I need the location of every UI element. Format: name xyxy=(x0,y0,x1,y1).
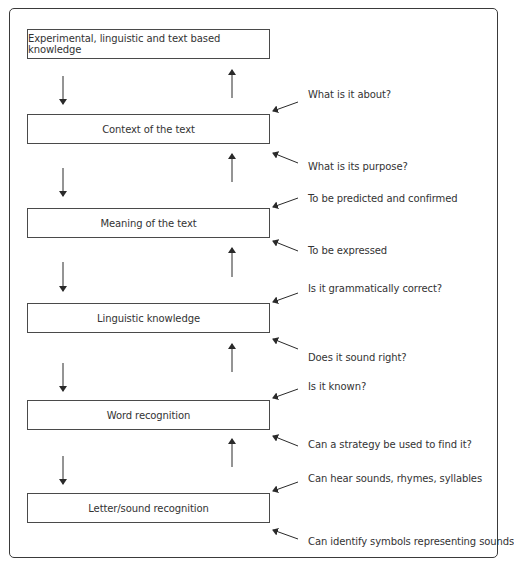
annotation-identify-symbols: Can identify symbols representing sounds xyxy=(308,536,514,547)
annotation-what-is-it-about: What is it about? xyxy=(308,89,391,100)
annotation-grammatically-correct: Is it grammatically correct? xyxy=(308,283,442,294)
box-label: Experimental, linguistic and text based … xyxy=(28,33,269,55)
annotation-hear-sounds: Can hear sounds, rhymes, syllables xyxy=(308,473,482,484)
annotation-strategy: Can a strategy be used to find it? xyxy=(308,439,472,450)
box-label: Meaning of the text xyxy=(100,218,196,229)
box-experiential-knowledge: Experimental, linguistic and text based … xyxy=(27,29,270,59)
annotation-to-be-predicted: To be predicted and confirmed xyxy=(308,193,458,204)
box-letter-sound-recognition: Letter/sound recognition xyxy=(27,493,270,523)
box-label: Word recognition xyxy=(107,410,191,421)
annotation-to-be-expressed: To be expressed xyxy=(308,245,387,256)
box-label: Letter/sound recognition xyxy=(88,503,208,514)
box-context-of-text: Context of the text xyxy=(27,114,270,144)
annotation-sound-right: Does it sound right? xyxy=(308,352,407,363)
annotation-what-is-its-purpose: What is its purpose? xyxy=(308,161,408,172)
box-meaning-of-text: Meaning of the text xyxy=(27,208,270,238)
annotation-is-it-known: Is it known? xyxy=(308,381,366,392)
box-label: Linguistic knowledge xyxy=(97,313,200,324)
box-label: Context of the text xyxy=(102,124,195,135)
box-linguistic-knowledge: Linguistic knowledge xyxy=(27,303,270,333)
box-word-recognition: Word recognition xyxy=(27,400,270,430)
